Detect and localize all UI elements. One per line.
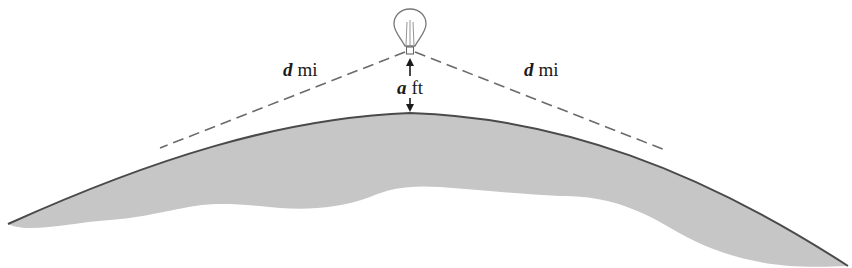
height-arrow-down	[406, 98, 414, 112]
right-distance-label: dmi	[524, 60, 559, 79]
balloon-icon	[394, 9, 426, 54]
left-distance-unit: mi	[298, 59, 318, 80]
left-distance-variable: d	[283, 59, 293, 80]
height-arrow-up	[406, 58, 414, 76]
left-distance-label: dmi	[283, 60, 318, 79]
balloon-horizon-diagram: dmi dmi aft	[0, 0, 852, 268]
height-unit: ft	[412, 77, 424, 98]
earth-surface	[8, 113, 848, 267]
right-distance-variable: d	[524, 59, 534, 80]
height-label: aft	[397, 78, 423, 97]
diagram-canvas	[0, 0, 852, 268]
height-variable: a	[397, 77, 407, 98]
right-distance-unit: mi	[539, 59, 559, 80]
